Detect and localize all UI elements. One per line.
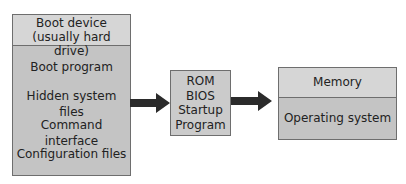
rom-bios-box: ROM BIOS Startup Program xyxy=(170,70,231,136)
arrow-right-icon xyxy=(130,93,171,113)
rom-label: ROM xyxy=(171,74,230,89)
program-label: Program xyxy=(171,118,230,133)
memory-box: Memory Operating system xyxy=(278,67,397,140)
boot-device-contents: Boot program Hidden system files Command… xyxy=(13,46,130,175)
boot-device-title: Boot device xyxy=(13,16,130,30)
boot-device-header: Boot device (usually hard drive) xyxy=(13,15,130,46)
boot-device-box: Boot device (usually hard drive) Boot pr… xyxy=(12,14,131,176)
operating-system-item: Operating system xyxy=(279,98,396,138)
arrow-right-icon xyxy=(231,91,273,111)
boot-program-item: Boot program xyxy=(13,59,130,88)
command-interface-item: Command interface xyxy=(13,117,130,146)
hidden-system-files-item: Hidden system files xyxy=(13,88,130,117)
bios-label: BIOS xyxy=(171,89,230,104)
configuration-files-item: Configuration files xyxy=(13,146,130,175)
startup-label: Startup xyxy=(171,103,230,118)
memory-header: Memory xyxy=(279,68,396,98)
